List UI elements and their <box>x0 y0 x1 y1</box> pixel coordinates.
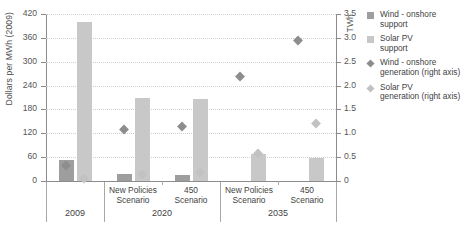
legend-item-label: Wind - onshore support <box>380 10 475 29</box>
legend-item-label: Solar PV generation (right axis) <box>380 83 475 102</box>
solar-support-bar <box>135 98 150 182</box>
left-axis-tick <box>41 86 46 87</box>
left-axis-tick <box>41 14 46 15</box>
wind-support-bar <box>117 174 132 181</box>
left-axis-tick <box>41 133 46 134</box>
wind-generation-swatch <box>366 60 374 68</box>
left-axis-tick <box>41 62 46 63</box>
legend-item: Wind - onshore generation (right axis) <box>367 58 475 77</box>
wind-generation-marker <box>235 71 245 81</box>
gridline <box>46 14 336 15</box>
wind-generation-marker <box>177 121 187 131</box>
wind-support-bar <box>175 175 190 181</box>
left-axis-tick-label: 300 <box>3 56 37 66</box>
wind-generation-marker <box>293 35 303 45</box>
right-axis-tick <box>336 133 341 134</box>
legend: Wind - onshore supportSolar PV supportWi… <box>367 10 475 107</box>
year-label: 2020 <box>104 208 220 218</box>
wind-support-swatch <box>367 12 374 19</box>
left-axis-tick <box>41 157 46 158</box>
left-axis-tick <box>41 109 46 110</box>
left-axis-tick-label: 420 <box>3 8 37 18</box>
legend-item: Wind - onshore support <box>367 10 475 29</box>
left-axis-tick-label: 240 <box>3 80 37 90</box>
left-axis-tick-label: 360 <box>3 32 37 42</box>
year-label: 2035 <box>220 208 336 218</box>
legend-item-label: Solar PV support <box>380 34 475 53</box>
left-axis-tick-label: 120 <box>3 127 37 137</box>
solar-support-bar <box>77 22 92 181</box>
legend-item: Solar PV generation (right axis) <box>367 83 475 102</box>
solar-generation-marker <box>311 119 321 129</box>
left-axis-tick-label: 180 <box>3 103 37 113</box>
legend-item: Solar PV support <box>367 34 475 53</box>
left-axis-tick-label: 0 <box>3 175 37 185</box>
left-axis-tick-label: 60 <box>3 151 37 161</box>
right-axis-tick-label: 1.0 <box>344 127 370 137</box>
chart-root: Dollars per MWh (2009) TWh 0601201802403… <box>0 0 475 240</box>
right-axis-tick-label: 0.5 <box>344 151 370 161</box>
legend-item-label: Wind - onshore generation (right axis) <box>380 58 475 77</box>
right-axis-tick <box>336 157 341 158</box>
right-axis-tick <box>336 109 341 110</box>
right-axis-tick <box>336 86 341 87</box>
solar-support-swatch <box>367 36 374 43</box>
bottom-axis-line <box>46 181 337 182</box>
right-axis-tick-label: 0 <box>344 175 370 185</box>
solar-generation-swatch <box>366 84 374 92</box>
solar-support-bar <box>309 158 324 181</box>
right-axis-tick <box>336 38 341 39</box>
year-label: 2009 <box>46 208 104 218</box>
right-axis-tick <box>336 14 341 15</box>
scenario-label: 450 Scenario <box>272 185 342 205</box>
left-axis-tick <box>41 38 46 39</box>
right-axis-tick <box>336 62 341 63</box>
